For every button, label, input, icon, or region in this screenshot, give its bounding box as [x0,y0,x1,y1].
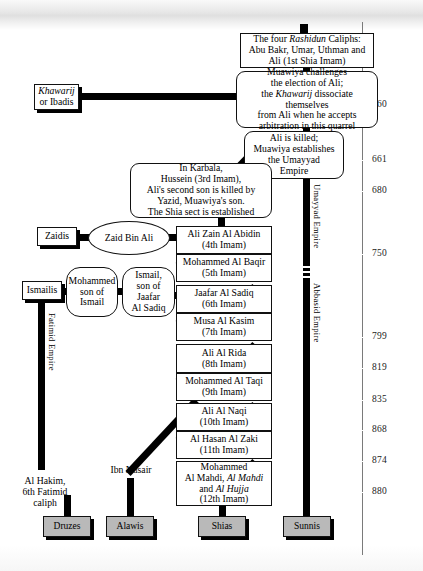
connector-fatimid-trunk [38,298,45,470]
timeline-label-661: 661 [372,154,387,164]
node-imam-5[interactable]: Mohammed Al Baqir (5th Imam) [176,254,272,282]
zaidis-label: Zaidis [43,231,71,242]
mohammed-son-line3: Ismail [80,296,104,307]
node-imam-6[interactable]: Jaafar Al Sadiq (6th Imam) [176,285,272,313]
imam-12-line2-italic: Al Mahdi [227,472,263,483]
node-ismailis[interactable]: Ismailis [22,281,62,300]
imam-12-line3-pre: and [199,483,215,494]
alikilled-line4: Empire [280,165,309,176]
muawiya-line2: the election of Ali; [271,77,343,88]
node-khawarij-ibadis[interactable]: Khawarij or Ibadis [34,84,79,110]
node-sect-druzes[interactable]: Druzes [43,516,91,537]
imam-7-name: Musa Al Kasim [194,315,255,326]
muawiya-line3-italic: Khawarij [276,88,313,99]
connector-khawarij-to-muawiya [70,93,245,100]
rashidun-line3: Ali (1st Shia Imam) [268,55,345,66]
muawiya-line5: arbitration in this quarrel [259,120,356,131]
ismail-son-line1: Ismail, [135,269,162,280]
node-imam-8[interactable]: Ali Al Rida (8th Imam) [176,344,272,373]
node-muawiya-challenges[interactable]: Muawiya challenges the election of Ali; … [236,71,378,128]
timeline-label-835: 835 [372,394,387,404]
empire-divider-dash-2 [301,271,312,273]
timeline-label-750: 750 [372,248,387,258]
node-sect-shias[interactable]: Shias [198,516,246,537]
imam-12-line1: Mohammed [201,461,248,472]
diagram-canvas: 660 661 680 750 799 819 835 868 874 880 [0,0,423,571]
imam-11-name: Al Hasan Al Zaki [190,433,258,444]
timeline-tick-819 [358,368,367,369]
node-sect-alawis[interactable]: Alawis [106,516,154,537]
node-imam-4[interactable]: Ali Zain Al Abidin (4th Imam) [176,226,272,254]
node-mohammed-son-of-ismail[interactable]: Mohammed son of Ismail [66,267,118,317]
alhakim-line2: 6th Fatimid [23,486,68,497]
rashidun-line1-italic: Rashidun [289,33,326,44]
imam-7-ordinal: (7th Imam) [202,326,246,337]
timeline-label-880: 880 [372,486,387,496]
imam-6-name: Jaafar Al Sadiq [194,287,253,298]
label-abbasid-empire: Abbasid Empire [312,283,322,343]
node-imam-11[interactable]: Al Hasan Al Zaki (11th Imam) [176,431,272,459]
rashidun-line2: Abu Bakr, Umar, Uthman and [249,44,366,55]
caption-ibn-nusair: Ibn Nusair [100,464,162,475]
zaid-bin-ali-label: Zaid Bin Ali [103,233,155,244]
empire-divider-dash-1 [301,266,312,268]
imam-11-ordinal: (11th Imam) [200,444,248,455]
sect-druzes-label: Druzes [52,521,83,532]
ibnnusair-label: Ibn Nusair [110,464,151,475]
imam-10-ordinal: (10th Imam) [200,416,249,427]
timeline-label-819: 819 [372,362,387,372]
karbala-line3: Ali's second son is killed by [147,184,256,195]
muawiya-line4: from Ali when he accepts [258,109,357,120]
node-imam-10[interactable]: Ali Al Naqi (10th Imam) [176,403,272,431]
node-sect-sunnis[interactable]: Sunnis [283,516,331,537]
imam-4-ordinal: (4th Imam) [202,239,246,250]
rashidun-line1-pre: The four [253,33,289,44]
imam-9-ordinal: (9th Imam) [202,386,246,397]
timeline-tick-880 [358,492,367,493]
connector-umayyad-abbasid-trunk [303,176,310,512]
sect-sunnis-label: Sunnis [292,521,322,532]
mohammed-son-line1: Mohammed [69,275,116,286]
timeline-tick-799 [358,337,367,338]
karbala-line1: In Karbala, [179,162,223,173]
imam-12-line3-italic: Al Hujja [216,483,249,494]
connector-ibnnusair-to-alawis [127,478,134,516]
imam-12-line2-pre: Al Mahdi, [185,472,227,483]
timeline-tick-750 [358,254,367,255]
timeline-label-868: 868 [372,424,387,434]
timeline-label-799: 799 [372,331,387,341]
timeline-label-680: 680 [372,185,387,195]
alhakim-line3: caliph [33,497,57,508]
node-imam-7[interactable]: Musa Al Kasim (7th Imam) [176,313,272,341]
sect-alawis-label: Alawis [115,521,146,532]
timeline-tick-874 [358,461,367,462]
node-zaid-bin-ali[interactable]: Zaid Bin Ali [88,221,170,255]
imam-8-ordinal: (8th Imam) [202,358,246,369]
node-imam-9[interactable]: Mohammed Al Taqi (9th Imam) [176,373,272,401]
caption-al-hakim: Al Hakim, 6th Fatimid caliph [14,475,76,508]
muawiya-line1: Muawiya challenges [267,66,347,77]
ismail-son-line2: son of Jaafar [137,280,161,302]
label-umayyad-empire: Umayyad Empire [312,184,322,248]
node-imam-12[interactable]: Mohammed Al Mahdi, Al Mahdi and Al Hujja… [176,461,272,506]
node-karbala[interactable]: In Karbala, Hussein (3rd Imam), Ali's se… [130,163,272,218]
rashidun-line1-post: Caliphs: [326,33,361,44]
khawarij-line1: Khawarij [38,85,75,96]
muawiya-line3-pre: the [261,88,275,99]
alikilled-line2: Muawiya establishes [254,143,335,154]
imam-8-name: Ali Al Rida [202,347,247,358]
sect-shias-label: Shias [210,521,235,532]
imam-10-name: Ali Al Naqi [201,405,246,416]
node-zaidis[interactable]: Zaidis [37,227,77,246]
node-rashidun-caliphs[interactable]: The four Rashidun Caliphs: Abu Bakr, Uma… [240,33,374,68]
timeline-label-874: 874 [372,455,387,465]
node-ismail-son-of-jaafar[interactable]: Ismail, son of Jaafar Al Sadiq [122,267,175,317]
karbala-line4: Yazid, Muawiya's son. [157,195,244,206]
mohammed-son-line2: son of [80,286,104,297]
imam-4-name: Ali Zain Al Abidin [188,228,261,239]
imam-12-ordinal: (12th Imam) [200,493,249,504]
imam-9-name: Mohammed Al Taqi [185,375,263,386]
ismailis-label: Ismailis [25,285,60,296]
karbala-line5: The Shia sect is established [148,206,255,217]
empire-divider-dash-3 [301,276,312,278]
